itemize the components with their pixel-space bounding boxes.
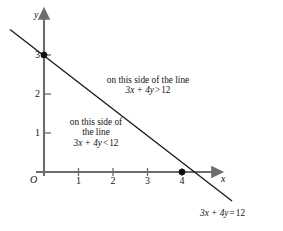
annotation-below-rhs: 12: [109, 138, 118, 148]
annotation-below-lhs: 3x + 4y: [73, 138, 101, 148]
y-tick-label-3: 3: [35, 49, 40, 60]
annotation-below-line: on this side of the line 3x + 4y<12: [48, 117, 144, 148]
y-intercept-point: [41, 52, 48, 59]
annotation-above-line-inequality: 3x + 4y>12: [92, 85, 204, 95]
y-axis-label: y: [34, 9, 38, 20]
inequality-graph-figure: y x O 1 2 3 4 1 2 3 on this side of the …: [0, 0, 283, 231]
annotation-below-line-text-1: on this side of: [48, 117, 144, 127]
annotation-above-line: on this side of the line 3x + 4y>12: [92, 75, 204, 96]
line-equation-rhs: 12: [236, 208, 245, 218]
x-tick-label-3: 3: [145, 175, 150, 186]
y-tick-label-2: 2: [35, 88, 40, 99]
annotation-below-line-inequality: 3x + 4y<12: [48, 138, 144, 148]
annotation-above-line-text: on this side of the line: [92, 75, 204, 85]
line-equation-relation: =: [228, 208, 235, 218]
annotation-above-lhs: 3x + 4y: [125, 85, 153, 95]
y-tick-label-1: 1: [35, 127, 40, 138]
plot-canvas: [0, 0, 283, 231]
x-axis-label: x: [221, 173, 225, 184]
x-tick-label-4: 4: [180, 175, 185, 186]
origin-label: O: [30, 174, 37, 185]
annotation-above-rhs: 12: [161, 85, 170, 95]
x-tick-label-2: 2: [111, 175, 116, 186]
line-equation-label: 3x + 4y=12: [200, 208, 245, 218]
line-equation-lhs: 3x + 4y: [200, 208, 228, 218]
x-tick-label-1: 1: [76, 175, 81, 186]
annotation-below-line-text-2: the line: [48, 127, 144, 137]
